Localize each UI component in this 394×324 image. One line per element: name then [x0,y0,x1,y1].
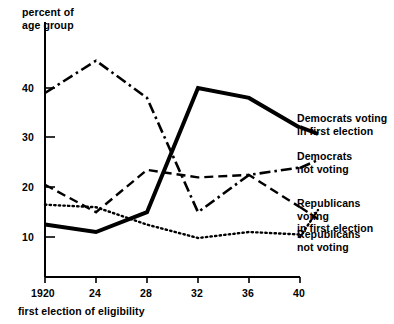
x-tick-label-32: 32 [191,287,203,299]
y-axis-ticks [45,88,55,237]
series-democrats-voting [45,88,300,232]
y-tick-label-10: 10 [22,231,34,243]
legend-label-republicans-not-voting: Republicans not voting [297,228,361,253]
x-axis-title: first election of eligibility [18,305,145,318]
x-tick-label-1920: 1920 [31,287,55,299]
legend-label-democrats-not-voting: Democrats not voting [297,150,352,175]
y-tick-label-30: 30 [22,131,34,143]
x-tick-label-28: 28 [140,287,152,299]
y-tick-label-20: 20 [22,181,34,193]
chart-container: percent of age group first election of e… [0,0,394,324]
series-republicans-not-voting [45,205,300,238]
series-democrats-not-voting [45,61,300,213]
y-tick-label-40: 40 [22,82,34,94]
y-axis-title: percent of age group [22,6,74,31]
x-tick-label-36: 36 [242,287,254,299]
x-tick-label-40: 40 [293,287,305,299]
x-tick-label-24: 24 [89,287,101,299]
legend-label-democrats-voting: Democrats voting in first election [297,112,387,137]
